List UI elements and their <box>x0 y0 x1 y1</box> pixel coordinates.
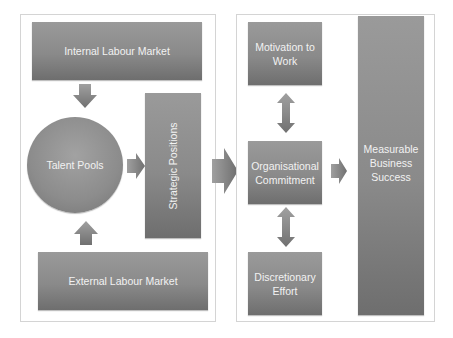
arrow-down-icon <box>73 84 97 108</box>
measurable-business-success-label: Measurable Business Success <box>361 142 421 184</box>
arrow-right-large-icon <box>212 148 238 194</box>
motivation-to-work-label: Motivation to Work <box>253 40 317 68</box>
arrow-right-icon <box>127 153 145 179</box>
talent-pools-label: Talent Pools <box>46 158 103 172</box>
measurable-business-success-box: Measurable Business Success <box>358 16 424 315</box>
arrow-bidirectional-icon <box>277 207 295 247</box>
arrow-right-small-icon <box>331 158 347 184</box>
strategic-positions-label: Strategic Positions <box>166 122 180 209</box>
internal-labour-market-label: Internal Labour Market <box>64 44 170 58</box>
external-labour-market-label: External Labour Market <box>68 274 177 288</box>
discretionary-effort-label: Discretionary Effort <box>250 270 320 298</box>
talent-pools-circle: Talent Pools <box>27 117 123 213</box>
motivation-to-work-box: Motivation to Work <box>248 22 322 85</box>
arrow-up-icon <box>74 221 98 245</box>
external-labour-market-box: External Labour Market <box>38 252 208 310</box>
arrow-bidirectional-icon <box>277 93 295 133</box>
organisational-commitment-box: Organisational Commitment <box>248 141 322 204</box>
internal-labour-market-box: Internal Labour Market <box>32 22 202 80</box>
strategic-positions-box: Strategic Positions <box>145 93 201 238</box>
discretionary-effort-box: Discretionary Effort <box>248 252 322 315</box>
organisational-commitment-label: Organisational Commitment <box>250 159 320 187</box>
